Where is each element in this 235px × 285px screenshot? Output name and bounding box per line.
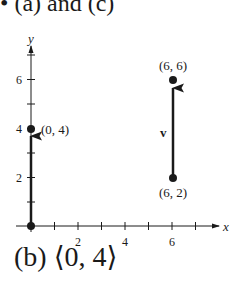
point-label-0-4: (0, 4) [41, 122, 69, 137]
x-tick-label-4: 4 [122, 235, 128, 249]
x-axis-label: x [222, 219, 229, 234]
y-tick-label-4: 4 [16, 122, 22, 136]
vector-v-label: v [160, 125, 167, 140]
y-tick-label-6: 6 [16, 73, 22, 87]
y-axis-label: y [26, 31, 34, 46]
point-0-4 [27, 125, 35, 133]
y-tick-label-2: 2 [16, 171, 22, 185]
point-6-2 [169, 174, 177, 182]
point-6-6 [169, 76, 177, 84]
caption-b: (b) ⟨0, 4⟩ [14, 240, 118, 273]
point-origin [27, 222, 35, 230]
point-label-6-2: (6, 2) [159, 185, 187, 200]
x-tick-label-6: 6 [169, 235, 175, 249]
point-label-6-6: (6, 6) [159, 58, 187, 73]
